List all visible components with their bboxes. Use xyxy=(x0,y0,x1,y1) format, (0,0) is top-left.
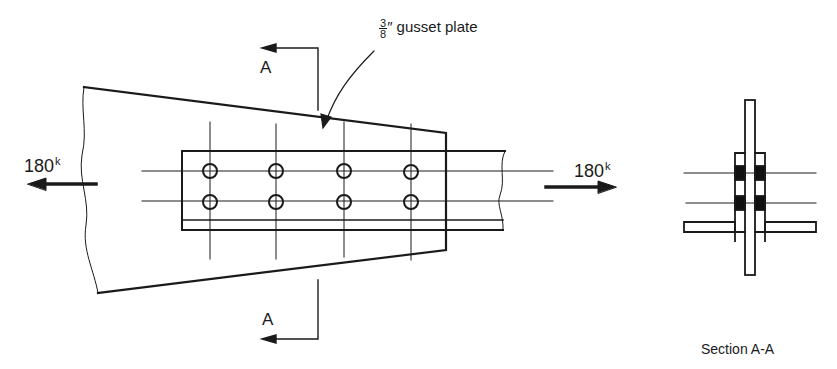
force-arrow-right xyxy=(546,181,616,193)
force-label-right: 180k xyxy=(574,160,611,182)
gusset-plate-text: gusset plate xyxy=(397,18,478,35)
force-left-value: 180 xyxy=(24,156,54,176)
gusset-plate-label: 38″ gusset plate xyxy=(379,18,478,39)
section-marker-bottom: A xyxy=(262,310,273,330)
section-caption: Section A-A xyxy=(701,341,774,357)
force-arrow-left xyxy=(28,178,96,190)
section-marker-top: A xyxy=(260,58,271,78)
pitch-lines xyxy=(210,122,411,260)
fraction-denominator: 8 xyxy=(379,29,387,39)
inch-mark: ″ xyxy=(387,18,392,35)
force-right-unit: k xyxy=(605,160,611,172)
force-label-left: 180k xyxy=(24,155,61,177)
gusset-leader xyxy=(321,51,374,128)
gusset-connection-drawing xyxy=(0,0,837,369)
section-a-a-view xyxy=(684,100,816,275)
thickness-fraction: 38 xyxy=(379,18,387,39)
force-right-value: 180 xyxy=(574,161,604,181)
gusset-plate xyxy=(81,87,446,293)
force-left-unit: k xyxy=(55,155,61,167)
